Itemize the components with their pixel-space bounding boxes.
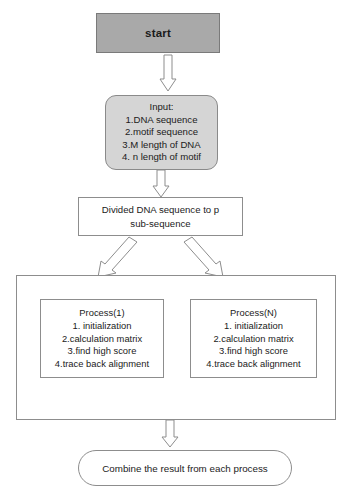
process-n-item-2: 2.calculation matrix [213,333,293,346]
process-1-item-2: 2.calculation matrix [62,333,142,346]
input-item-1: 1.DNA sequence [126,114,198,127]
combine-node[interactable]: Combine the result from each process [78,450,292,486]
process-n-item-4: 4.trace back alignment [206,358,300,371]
arrow-input-to-divide [152,170,170,198]
process-n-item-1: 1. initialization [224,320,283,333]
process-n-item-3: 3.find high score [219,345,288,358]
input-node[interactable]: Input: 1.DNA sequence 2.motif sequence 3… [105,95,218,170]
process-1-item-3: 3.find high score [68,345,137,358]
input-item-4: 4. n length of motif [122,151,201,164]
process-1-item-1: 1. initialization [73,320,132,333]
divide-line-2: sub-sequence [130,217,190,231]
process-n-heading: Process(N) [230,307,277,320]
arrow-divide-to-process-n [183,237,229,279]
divide-line-1: Divided DNA sequence to p [102,203,219,217]
start-node[interactable]: start [96,13,220,53]
input-item-2: 2.motif sequence [125,126,198,139]
arrow-divide-to-process-1 [93,237,139,279]
arrow-container-to-combine [161,420,179,448]
divide-node[interactable]: Divided DNA sequence to p sub-sequence [78,197,243,236]
combine-label: Combine the result from each process [102,463,268,474]
start-label: start [145,27,171,39]
arrow-start-to-input [159,55,177,93]
input-heading: Input: [149,101,173,114]
process-n-node[interactable]: Process(N) 1. initialization 2.calculati… [190,299,317,378]
input-item-3: 3.M length of DNA [122,139,200,152]
process-1-heading: Process(1) [79,307,124,320]
flowchart-canvas: start Input: 1.DNA sequence 2.motif sequ… [0,0,351,502]
process-1-node[interactable]: Process(1) 1. initialization 2.calculati… [40,299,164,378]
process-1-item-4: 4.trace back alignment [55,358,149,371]
